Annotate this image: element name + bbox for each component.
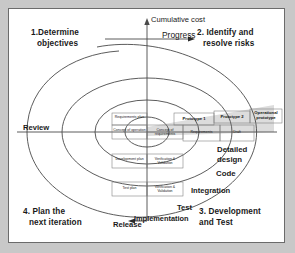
stage-detailed-design: Detaileddesign bbox=[217, 145, 261, 164]
axis-label-cumulative-cost: Cumulative cost bbox=[151, 15, 205, 24]
stage-integration: Integration bbox=[191, 186, 230, 195]
diagram-panel: 1.Determine objectives 2. Identify and r… bbox=[8, 8, 285, 243]
quadrant-1-line1: 1.Determine bbox=[31, 28, 79, 37]
label-prototype-2: Prototype 2 bbox=[214, 114, 250, 119]
quadrant-2-line2: resolve risks bbox=[197, 39, 254, 48]
quadrant-3-line2: and Test bbox=[199, 218, 233, 227]
cell-verification-validation-2: Verification & Validation bbox=[147, 185, 183, 193]
cell-concept-of-operation: Concept of operation bbox=[112, 128, 147, 132]
quadrant-heading-2: 2. Identify and resolve risks bbox=[197, 27, 254, 49]
quadrant-heading-4: 4. Plan the next iteration bbox=[23, 206, 82, 228]
cell-concept-of-requirements: Concept of requirements bbox=[147, 128, 183, 136]
quadrant-2-line1: 2. Identify and bbox=[197, 28, 254, 37]
stage-test: Test bbox=[177, 203, 192, 212]
quadrant-heading-1: 1.Determine objectives bbox=[31, 27, 79, 49]
quadrant-1-line2: objectives bbox=[31, 39, 78, 48]
cell-development-plan: Development plan bbox=[112, 157, 147, 161]
stage-code: Code bbox=[216, 169, 236, 178]
axis-label-progress: Progress bbox=[162, 30, 196, 40]
stage-implementation: Implementation bbox=[134, 214, 189, 223]
cell-verification-validation-1: Verification & Validation bbox=[147, 157, 183, 165]
quadrant-4-line2: next iteration bbox=[23, 218, 82, 227]
label-prototype-1: Prototype 1 bbox=[174, 116, 214, 121]
cell-requirements-plan: Requirements plan bbox=[112, 115, 147, 119]
label-review: Review bbox=[23, 123, 49, 132]
cell-requirements: Requirements bbox=[183, 130, 220, 134]
quadrant-heading-3: 3. Development and Test bbox=[199, 206, 261, 228]
label-operational-prototype: Operational prototype bbox=[250, 110, 282, 120]
quadrant-4-line1: 4. Plan the bbox=[23, 207, 65, 216]
cell-draft: Draft bbox=[220, 130, 254, 134]
cell-test-plan: Test plan bbox=[112, 186, 147, 190]
quadrant-3-line1: 3. Development bbox=[199, 207, 261, 216]
